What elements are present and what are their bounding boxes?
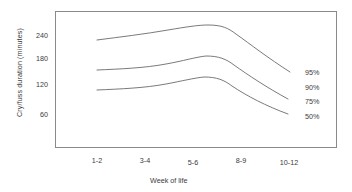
series-label-50: 50%: [305, 112, 319, 121]
y-axis-title: Cry/fuss duration (minutes): [15, 18, 24, 128]
x-tick-label-10-12: 10-12: [272, 158, 306, 167]
series-label-75: 75%: [305, 97, 319, 106]
plot-frame: [56, 12, 337, 148]
y-tick-label-120: 120: [26, 80, 48, 89]
x-tick-label-1-2: 1-2: [80, 156, 114, 165]
y-tick-label-180: 180: [26, 54, 48, 63]
x-tick-label-8-9: 8-9: [224, 156, 258, 165]
curve-90-75: [97, 56, 288, 99]
x-tick-label-5-6: 5-6: [176, 158, 210, 167]
series-label-95: 95%: [305, 68, 319, 77]
y-tick-label-60: 60: [26, 110, 48, 119]
series-label-90: 90%: [305, 83, 319, 92]
x-tick-label-3-4: 3-4: [128, 156, 162, 165]
chart-figure: Cry/fuss duration (minutes) Week of life…: [0, 0, 352, 192]
x-axis-title: Week of life: [150, 176, 187, 185]
y-tick-label-240: 240: [26, 31, 48, 40]
curve-95: [97, 25, 290, 72]
